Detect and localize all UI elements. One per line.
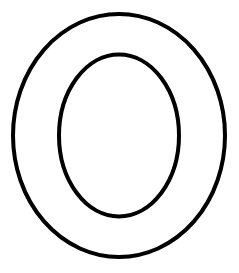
background: [0, 0, 239, 273]
letter-o-canvas: [0, 0, 239, 273]
letter-o-outline-icon: [0, 0, 239, 273]
